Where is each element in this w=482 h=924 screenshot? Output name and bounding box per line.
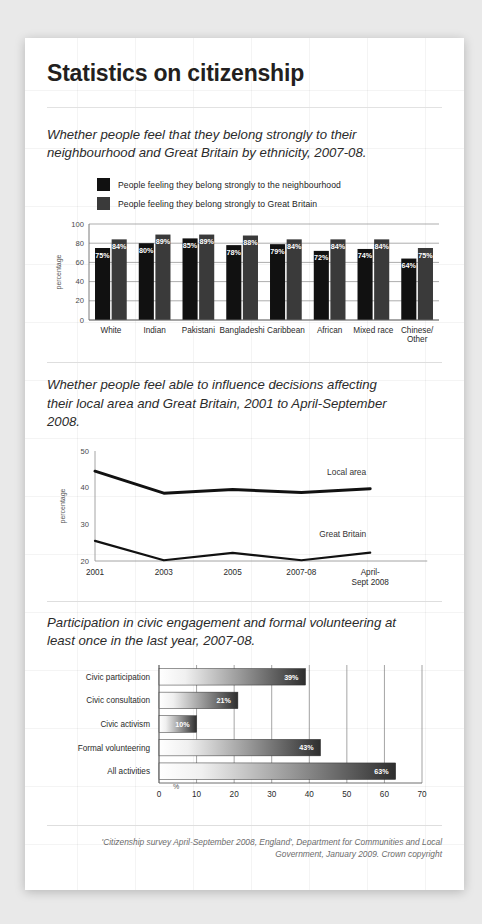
svg-text:88%: 88% bbox=[243, 238, 258, 247]
svg-text:85%: 85% bbox=[183, 241, 198, 250]
svg-text:%: % bbox=[173, 783, 179, 790]
legend-swatch-neighbourhood bbox=[97, 178, 110, 191]
bar-chineseother-series2: 75% bbox=[418, 248, 433, 320]
svg-text:70: 70 bbox=[417, 790, 427, 799]
chart2-subtitle: Whether people feel able to influence de… bbox=[47, 376, 397, 431]
bar-african-series2: 84% bbox=[330, 240, 345, 321]
hbar-allactivities: 63% bbox=[159, 762, 396, 779]
legend-label-great-britain: People feeling they belong strongly to G… bbox=[118, 199, 317, 209]
bar-mixedrace-series1: 74% bbox=[358, 249, 373, 320]
svg-text:79%: 79% bbox=[270, 247, 285, 256]
bar-caribbean-series1: 79% bbox=[270, 245, 285, 321]
svg-text:43%: 43% bbox=[299, 743, 314, 752]
svg-text:Sept 2008: Sept 2008 bbox=[352, 578, 390, 587]
chart-civic-participation: 01020304050607039%Civic participation21%… bbox=[47, 657, 442, 817]
svg-text:Mixed race: Mixed race bbox=[353, 326, 393, 335]
svg-text:All activities: All activities bbox=[107, 767, 150, 776]
svg-text:10%: 10% bbox=[175, 719, 190, 728]
chart1-legend: People feeling they belong strongly to t… bbox=[97, 178, 442, 210]
svg-text:Caribbean: Caribbean bbox=[267, 326, 305, 335]
credit-line-2: Government, January 2009. Crown copyrigh… bbox=[275, 849, 442, 859]
chart1-subtitle: Whether people feel that they belong str… bbox=[47, 126, 377, 162]
bar-bangladeshi-series1: 78% bbox=[226, 246, 241, 321]
svg-text:74%: 74% bbox=[358, 252, 373, 261]
svg-text:89%: 89% bbox=[199, 237, 214, 246]
svg-text:21%: 21% bbox=[217, 696, 232, 705]
svg-text:White: White bbox=[100, 326, 121, 335]
svg-text:Civic consultation: Civic consultation bbox=[86, 696, 150, 705]
chart-influence-decisions: 20304050percentageLocal areaGreat Britai… bbox=[47, 439, 442, 599]
svg-text:20: 20 bbox=[76, 297, 84, 306]
svg-text:Other: Other bbox=[407, 335, 428, 344]
bar-white-series1: 75% bbox=[95, 248, 110, 320]
svg-text:Formal volunteering: Formal volunteering bbox=[78, 743, 151, 752]
svg-text:30: 30 bbox=[81, 520, 89, 529]
svg-text:percentage: percentage bbox=[55, 255, 63, 290]
svg-text:percentage: percentage bbox=[59, 488, 67, 523]
svg-text:Chinese/: Chinese/ bbox=[401, 326, 434, 335]
bar-bangladeshi-series2: 88% bbox=[243, 236, 258, 320]
svg-text:84%: 84% bbox=[374, 242, 389, 251]
bar-african-series1: 72% bbox=[314, 251, 329, 320]
chart3-subtitle: Participation in civic engagement and fo… bbox=[47, 614, 397, 650]
divider-chart3 bbox=[47, 825, 442, 826]
svg-text:30: 30 bbox=[267, 790, 277, 799]
divider-chart2 bbox=[47, 601, 442, 602]
svg-text:20: 20 bbox=[230, 790, 240, 799]
svg-text:2003: 2003 bbox=[155, 568, 174, 577]
legend-item-great-britain: People feeling they belong strongly to G… bbox=[97, 197, 442, 210]
svg-text:Pakistani: Pakistani bbox=[182, 326, 215, 335]
svg-text:78%: 78% bbox=[227, 248, 242, 257]
svg-text:50: 50 bbox=[342, 790, 352, 799]
legend-item-neighbourhood: People feeling they belong strongly to t… bbox=[97, 178, 442, 191]
bar-white-series2: 84% bbox=[112, 240, 127, 321]
svg-text:80%: 80% bbox=[139, 246, 154, 255]
svg-text:64%: 64% bbox=[402, 261, 417, 270]
bar-indian-series2: 89% bbox=[155, 235, 170, 320]
svg-text:60: 60 bbox=[380, 790, 390, 799]
svg-text:Indian: Indian bbox=[143, 326, 166, 335]
bar-mixedrace-series2: 84% bbox=[374, 240, 389, 321]
divider-title bbox=[47, 107, 442, 108]
svg-text:50: 50 bbox=[81, 447, 89, 456]
svg-text:Civic activism: Civic activism bbox=[100, 720, 150, 729]
source-credit: 'Citizenship survey April-September 2008… bbox=[47, 836, 442, 861]
svg-text:Bangladeshi: Bangladeshi bbox=[220, 326, 265, 335]
svg-text:63%: 63% bbox=[374, 766, 389, 775]
svg-text:0: 0 bbox=[157, 790, 162, 799]
series-label-great-britain: Great Britain bbox=[319, 529, 366, 539]
svg-text:89%: 89% bbox=[156, 237, 171, 246]
svg-text:10: 10 bbox=[192, 790, 202, 799]
hbar-civicactivism: 10% bbox=[159, 715, 197, 732]
bar-pakistani-series1: 85% bbox=[183, 239, 198, 321]
svg-text:2001: 2001 bbox=[86, 568, 105, 577]
svg-text:72%: 72% bbox=[314, 254, 329, 263]
credit-line-1: 'Citizenship survey April-September 2008… bbox=[102, 837, 442, 847]
svg-text:84%: 84% bbox=[112, 242, 127, 251]
hbar-civicparticipation: 39% bbox=[159, 668, 306, 685]
svg-text:0: 0 bbox=[80, 316, 84, 325]
bar-indian-series1: 80% bbox=[139, 244, 154, 321]
svg-text:2005: 2005 bbox=[223, 568, 242, 577]
infographic-card: Statistics on citizenship Whether people… bbox=[25, 38, 464, 890]
svg-text:African: African bbox=[317, 326, 343, 335]
bar-pakistani-series2: 89% bbox=[199, 235, 214, 320]
svg-text:75%: 75% bbox=[418, 251, 433, 260]
series-label-local-area: Local area bbox=[327, 467, 366, 477]
svg-text:April-: April- bbox=[361, 568, 380, 577]
page-title: Statistics on citizenship bbox=[47, 38, 442, 87]
svg-text:40: 40 bbox=[76, 278, 84, 287]
svg-text:75%: 75% bbox=[95, 251, 110, 260]
legend-swatch-great-britain bbox=[97, 197, 110, 210]
svg-text:39%: 39% bbox=[284, 672, 299, 681]
svg-text:84%: 84% bbox=[287, 242, 302, 251]
line-series-great-britain bbox=[95, 541, 370, 560]
legend-label-neighbourhood: People feeling they belong strongly to t… bbox=[118, 180, 341, 190]
svg-text:80: 80 bbox=[76, 239, 84, 248]
svg-text:2007-08: 2007-08 bbox=[286, 568, 316, 577]
bar-caribbean-series2: 84% bbox=[287, 240, 302, 321]
hbar-formalvolunteering: 43% bbox=[159, 739, 321, 756]
svg-text:20: 20 bbox=[81, 557, 89, 566]
hbar-civicconsultation: 21% bbox=[159, 692, 238, 709]
svg-text:84%: 84% bbox=[331, 242, 346, 251]
